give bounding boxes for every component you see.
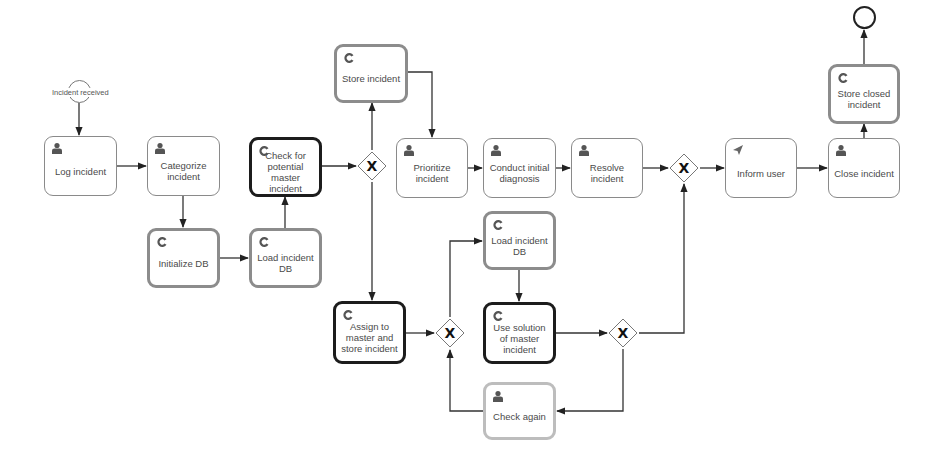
task-label: Store incident <box>342 73 400 84</box>
task-prioritize-incident[interactable]: Prioritize incident <box>396 138 468 198</box>
task-label: Use solution of master incident <box>490 322 549 355</box>
task-label: Log incident <box>55 166 106 177</box>
task-label: Initialize DB <box>158 258 208 269</box>
user-icon <box>492 390 504 402</box>
sequence-flows <box>0 0 944 459</box>
task-conduct-initial-diagnosis[interactable]: Conduct initial diagnosis <box>483 138 556 198</box>
task-label: Categorize incident <box>152 160 215 182</box>
task-store-incident[interactable]: Store incident <box>334 44 408 103</box>
task-label: Prioritize incident <box>401 162 463 184</box>
task-label: Resolve incident <box>576 162 638 184</box>
task-load-incident-db-2[interactable]: Load incident DB <box>483 211 556 270</box>
user-icon <box>835 144 847 156</box>
task-check-for-potential-master-incident[interactable]: Check for potential master incident <box>249 137 322 197</box>
svg-text:X: X <box>367 158 378 174</box>
exclusive-gateway-4[interactable]: X <box>608 318 638 348</box>
task-assign-to-master-and-store-incident[interactable]: Assign to master and store incident <box>333 301 406 364</box>
user-icon <box>578 144 590 156</box>
exclusive-gateway-1[interactable]: X <box>357 151 387 181</box>
task-close-incident[interactable]: Close incident <box>828 138 900 198</box>
send-icon <box>732 144 744 156</box>
task-label: Inform user <box>737 168 785 179</box>
task-inform-user[interactable]: Inform user <box>725 138 797 198</box>
service-task-icon <box>258 145 270 157</box>
svg-text:X: X <box>679 160 690 176</box>
service-task-icon <box>492 310 504 322</box>
task-resolve-incident[interactable]: Resolve incident <box>571 138 643 198</box>
task-initialize-db[interactable]: Initialize DB <box>147 228 220 288</box>
user-icon <box>403 144 415 156</box>
user-icon <box>490 144 502 156</box>
task-label: Assign to master and store incident <box>340 321 399 354</box>
task-label: Load incident DB <box>256 252 315 274</box>
user-icon <box>51 142 63 154</box>
task-store-closed-incident[interactable]: Store closed incident <box>828 64 900 124</box>
task-log-incident[interactable]: Log incident <box>44 136 117 196</box>
service-task-icon <box>258 236 270 248</box>
service-task-icon <box>156 236 168 248</box>
task-label: Load incident DB <box>490 235 549 257</box>
svg-text:X: X <box>445 325 456 341</box>
task-load-incident-db[interactable]: Load incident DB <box>249 228 322 288</box>
task-label: Check again <box>493 411 546 422</box>
exclusive-gateway-3[interactable]: X <box>435 318 465 348</box>
service-task-icon <box>342 309 354 321</box>
bpmn-diagram: Incident received Log incident Categoriz… <box>0 0 944 459</box>
service-task-icon <box>492 219 504 231</box>
service-task-icon <box>343 52 355 64</box>
task-check-again[interactable]: Check again <box>483 382 556 440</box>
task-label: Conduct initial diagnosis <box>488 162 551 184</box>
task-use-solution-of-master-incident[interactable]: Use solution of master incident <box>483 302 556 364</box>
task-categorize-incident[interactable]: Categorize incident <box>147 136 220 196</box>
user-icon <box>154 142 166 154</box>
task-label: Close incident <box>834 168 894 179</box>
start-event-label: Incident received <box>51 88 110 97</box>
task-label: Store closed incident <box>835 88 893 110</box>
svg-text:X: X <box>618 325 629 341</box>
end-event[interactable] <box>853 6 876 29</box>
service-task-icon <box>837 72 849 84</box>
exclusive-gateway-2[interactable]: X <box>669 153 699 183</box>
